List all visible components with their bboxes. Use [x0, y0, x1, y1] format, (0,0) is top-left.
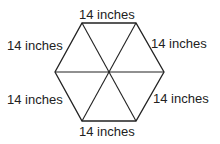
label-lower-right: 14 inches: [153, 91, 209, 106]
label-top: 14 inches: [79, 7, 135, 22]
label-upper-right: 14 inches: [151, 36, 207, 51]
label-upper-left: 14 inches: [7, 38, 63, 53]
label-bottom: 14 inches: [79, 124, 135, 139]
hexagon-diagram: 14 inches 14 inches 14 inches 14 inches …: [0, 0, 220, 144]
label-lower-left: 14 inches: [7, 92, 63, 107]
